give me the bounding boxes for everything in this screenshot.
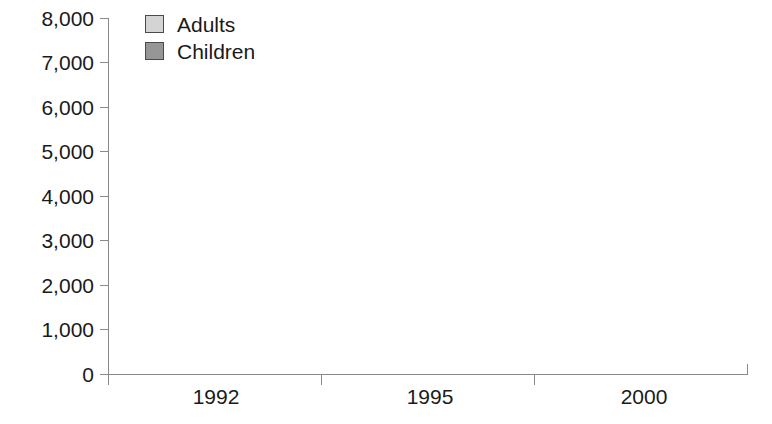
x-axis-separator-1 — [321, 374, 322, 385]
y-tick-label-5000: 5,000 — [0, 141, 94, 162]
legend-swatch-adults-icon — [145, 15, 164, 33]
stacked-bar-chart: 8,000 7,000 6,000 5,000 4,000 3,000 2,00… — [0, 0, 772, 424]
legend-label-children: Children — [177, 41, 255, 62]
y-tick-mark-5000 — [100, 151, 109, 152]
x-tick-label-2000: 2000 — [591, 386, 697, 408]
legend-label-adults: Adults — [177, 14, 235, 35]
y-tick-label-1000: 1,000 — [0, 319, 94, 340]
y-tick-mark-2000 — [100, 285, 109, 286]
x-axis-end-cap — [747, 364, 748, 375]
x-axis-separator-0 — [108, 374, 109, 385]
x-tick-label-1995: 1995 — [377, 386, 483, 408]
legend-item-adults: Adults — [145, 12, 255, 36]
y-tick-label-8000: 8,000 — [0, 8, 94, 29]
y-tick-label-0: 0 — [0, 364, 94, 385]
y-tick-mark-3000 — [100, 240, 109, 241]
legend-swatch-children-icon — [145, 42, 164, 60]
y-tick-mark-4000 — [100, 196, 109, 197]
y-tick-label-2000: 2,000 — [0, 275, 94, 296]
y-tick-mark-8000 — [100, 18, 109, 19]
x-axis-line — [108, 374, 748, 375]
y-tick-mark-1000 — [100, 329, 109, 330]
x-tick-label-1992: 1992 — [163, 386, 269, 408]
chart-legend: Adults Children — [145, 12, 255, 66]
legend-item-children: Children — [145, 39, 255, 63]
y-tick-label-6000: 6,000 — [0, 97, 94, 118]
y-tick-mark-6000 — [100, 107, 109, 108]
y-tick-label-7000: 7,000 — [0, 52, 94, 73]
y-tick-label-4000: 4,000 — [0, 186, 94, 207]
plot-area: 8,000 7,000 6,000 5,000 4,000 3,000 2,00… — [0, 0, 772, 424]
y-tick-mark-7000 — [100, 62, 109, 63]
x-axis-separator-2 — [534, 374, 535, 385]
y-tick-label-3000: 3,000 — [0, 230, 94, 251]
